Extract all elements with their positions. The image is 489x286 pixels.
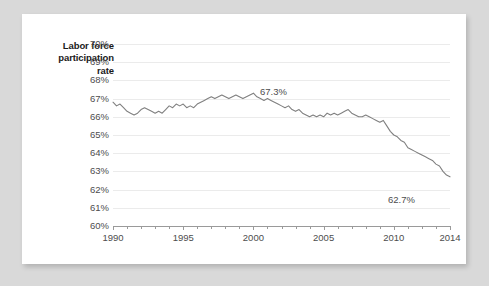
annotation-latest-value: 62.7% [388, 194, 415, 205]
chart-card: Labor force participation rate 70%69%68%… [22, 14, 466, 264]
y-axis-tick-label: 60% [69, 220, 109, 231]
x-axis-minor-tick [352, 226, 353, 229]
x-axis-minor-tick [225, 226, 226, 229]
x-axis-major-tick [113, 226, 114, 230]
x-axis-minor-tick [155, 226, 156, 229]
x-axis-tick-label: 2005 [299, 232, 349, 243]
x-axis-minor-tick [267, 226, 268, 229]
x-axis-minor-tick [338, 226, 339, 229]
x-axis-minor-tick [239, 226, 240, 229]
x-axis-minor-tick [380, 226, 381, 229]
y-axis-tick-label: 64% [69, 147, 109, 158]
x-axis-minor-tick [169, 226, 170, 229]
y-axis-tick-label: 61% [69, 202, 109, 213]
x-axis-minor-tick [141, 226, 142, 229]
x-axis-minor-tick [211, 226, 212, 229]
x-axis-major-tick [253, 226, 254, 230]
x-axis-minor-tick [408, 226, 409, 229]
y-axis-tick-label: 63% [69, 165, 109, 176]
x-axis-major-tick [183, 226, 184, 230]
x-axis-minor-tick [197, 226, 198, 229]
x-axis-tick-label: 2010 [369, 232, 419, 243]
x-axis-minor-tick [127, 226, 128, 229]
y-axis-tick-label: 69% [69, 56, 109, 67]
y-axis-tick-label: 65% [69, 129, 109, 140]
x-axis-tick-label: 2000 [228, 232, 278, 243]
x-axis-major-tick [324, 226, 325, 230]
x-axis-major-tick [450, 226, 451, 230]
x-axis-minor-tick [282, 226, 283, 229]
y-axis-tick-label: 66% [69, 111, 109, 122]
series-line-labor-force-participation-rate [113, 93, 450, 177]
y-axis-tick-label: 67% [69, 93, 109, 104]
annotation-peak-value: 67.3% [260, 86, 287, 97]
y-axis-tick-label: 68% [69, 74, 109, 85]
x-axis-tick-label: 1990 [88, 232, 138, 243]
x-axis-minor-tick [422, 226, 423, 229]
page-root: Labor force participation rate 70%69%68%… [0, 0, 489, 286]
x-axis-major-tick [394, 226, 395, 230]
y-axis-tick-label: 62% [69, 184, 109, 195]
plot-area: 70%69%68%67%66%65%64%63%62%61%60% 199019… [113, 44, 450, 226]
x-axis-minor-tick [436, 226, 437, 229]
x-axis-minor-tick [366, 226, 367, 229]
x-axis-tick-label: 2014 [425, 232, 475, 243]
y-axis-tick-label: 70% [69, 38, 109, 49]
x-axis-minor-tick [296, 226, 297, 229]
x-axis-tick-label: 1995 [158, 232, 208, 243]
x-axis-minor-tick [310, 226, 311, 229]
